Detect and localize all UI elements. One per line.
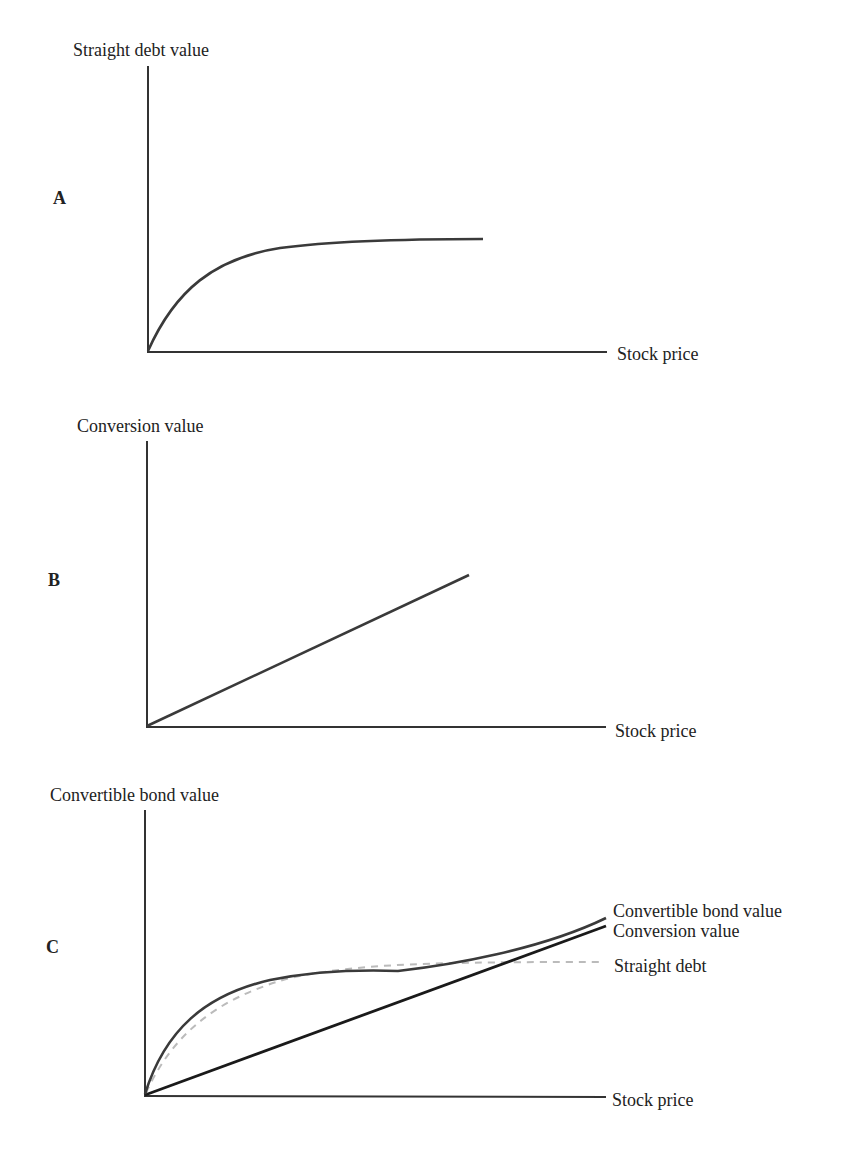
panel-c-letter: C: [46, 938, 59, 956]
diagram-graphics: [0, 0, 854, 1157]
panel-b-y-axis-label: Conversion value: [77, 417, 203, 435]
panel-c-graphics: [144, 810, 606, 1097]
panel-b-graphics: [146, 441, 606, 727]
panel-c-series-label-conversion: Conversion value: [613, 922, 739, 940]
panel-c-x-axis: [144, 1096, 606, 1097]
panel-c-y-axis-label: Convertible bond value: [50, 786, 219, 804]
convertible-bond-diagram: Straight debt value A Stock price Conver…: [0, 0, 854, 1157]
panel-c-straight-debt-dashed-curve: [146, 962, 605, 1093]
panel-b-conversion-line: [147, 575, 469, 726]
panel-c-series-label-convertible: Convertible bond value: [613, 902, 782, 920]
panel-a-letter: A: [53, 189, 66, 207]
panel-a-straight-debt-curve: [148, 239, 483, 351]
panel-a-graphics: [147, 66, 607, 352]
panel-b-x-axis-label: Stock price: [615, 722, 696, 740]
panel-a-x-axis-label: Stock price: [617, 345, 698, 363]
panel-b-letter: B: [48, 571, 60, 589]
panel-a-y-axis-label: Straight debt value: [73, 41, 209, 59]
panel-c-x-axis-label: Stock price: [612, 1091, 693, 1109]
panel-c-convertible-bond-curve: [145, 918, 606, 1094]
panel-c-series-label-straight-debt: Straight debt: [614, 957, 707, 975]
